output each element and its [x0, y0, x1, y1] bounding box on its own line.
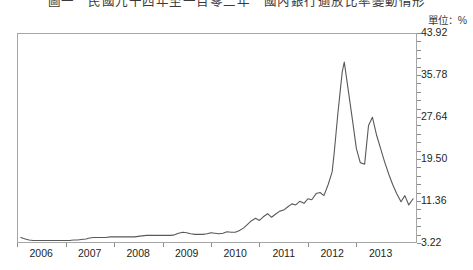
x-axis-tick-mark [66, 243, 67, 247]
line-series-layer [17, 33, 417, 243]
y-axis-tick-mark [417, 117, 421, 118]
y-axis-tick-mark [417, 151, 421, 152]
y-axis-tick-mark [417, 109, 421, 110]
y-axis-tick-mark [417, 243, 421, 244]
x-axis-tick-label: 2006 [30, 247, 53, 259]
y-axis-tick-mark [417, 58, 421, 59]
y-axis-tick-mark [417, 134, 421, 135]
y-axis-tick-label: 19.50 [421, 153, 447, 164]
y-axis-labels: 43.9235.7827.6419.5011.363.22 [421, 0, 473, 270]
x-axis-tick-mark [259, 243, 260, 247]
chart-title: 圖一 民國九十四年至一百零二年 國內銀行逾放比率變動情形 [0, 0, 473, 7]
y-axis-tick-mark [417, 235, 421, 236]
y-axis-tick-mark [417, 184, 421, 185]
y-axis-tick-mark [417, 159, 421, 160]
y-axis-tick-mark [417, 226, 421, 227]
x-axis-tick-label: 2012 [321, 247, 344, 259]
x-axis-tick-label: 2008 [127, 247, 150, 259]
y-axis-tick-mark [417, 75, 421, 76]
y-axis-tick-mark [417, 67, 421, 68]
x-axis-tick-label: 2007 [78, 247, 101, 259]
line-series-path [21, 62, 413, 241]
y-axis-tick-mark [417, 218, 421, 219]
y-axis-tick-label: 11.36 [421, 195, 447, 206]
y-axis-tick-label: 35.78 [421, 69, 447, 80]
y-axis-tick-mark [417, 33, 421, 34]
x-axis-tick-mark [17, 243, 18, 247]
x-axis-tick-label: 2011 [272, 247, 295, 259]
x-axis-tick-mark [211, 243, 212, 247]
y-axis-tick-label: 43.92 [421, 27, 447, 38]
x-axis-tick-mark [308, 243, 309, 247]
x-axis-tick-label: 2009 [175, 247, 198, 259]
x-axis-tick-label: 2013 [369, 247, 392, 259]
y-axis-tick-mark [417, 142, 421, 143]
y-axis-tick-mark [417, 92, 421, 93]
y-axis-tick-mark [417, 100, 421, 101]
x-axis-tick-label: 2010 [224, 247, 247, 259]
y-axis-tick-mark [417, 125, 421, 126]
y-axis-tick-mark [417, 41, 421, 42]
x-axis-labels: 20062007200820092010201120122013 [0, 247, 473, 267]
y-axis-tick-mark [417, 209, 421, 210]
x-axis-tick-mark [114, 243, 115, 247]
x-axis-tick-mark [356, 243, 357, 247]
y-axis-tick-mark [417, 176, 421, 177]
y-axis-tick-mark [417, 50, 421, 51]
y-axis-tick-mark [417, 167, 421, 168]
y-axis-tick-mark [417, 83, 421, 84]
y-axis-tick-mark [417, 193, 421, 194]
x-axis-tick-mark [163, 243, 164, 247]
y-axis-tick-mark [417, 201, 421, 202]
y-axis-tick-label: 27.64 [421, 111, 447, 122]
chart-container: 圖一 民國九十四年至一百零二年 國內銀行逾放比率變動情形 單位：% 43.923… [0, 0, 473, 270]
